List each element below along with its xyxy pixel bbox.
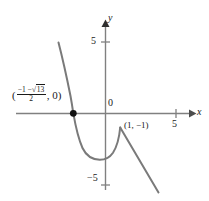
x-tick-label-5: 5	[172, 118, 177, 129]
x-intercept-label: ( −1 −√13 2 , 0)	[12, 86, 61, 103]
x-axis-arrow	[189, 110, 197, 118]
root-radical: √13	[32, 84, 45, 94]
root-radicand: 13	[36, 84, 45, 94]
origin-label: 0	[108, 97, 113, 108]
graph-figure: y x 5 −5 5 0 (1, −1) ( −1 −√13 2 , 0)	[0, 0, 209, 201]
x-intercept-point	[70, 110, 77, 117]
linear-branch	[120, 128, 158, 193]
root-label-fraction: −1 −√13 2	[17, 86, 46, 103]
root-label-open-paren: (	[12, 89, 16, 101]
corner-point-label: (1, −1)	[124, 120, 149, 130]
y-tick-label-5: 5	[91, 35, 96, 46]
root-label-numerator: −1 −√13	[17, 86, 46, 94]
root-label-close: , 0)	[47, 89, 62, 101]
x-axis-label: x	[197, 106, 201, 117]
root-numerator-text: −1 −	[18, 85, 32, 94]
y-tick-label-minus-5: −5	[87, 172, 98, 183]
y-axis-label: y	[108, 12, 112, 23]
root-label-denominator: 2	[28, 95, 34, 103]
